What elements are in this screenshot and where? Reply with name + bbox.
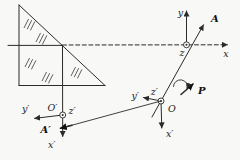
x-prime-label-at-o: x′: [166, 128, 174, 139]
glass-hatch-mark: [42, 72, 53, 83]
glass-hatch-mark: [71, 67, 82, 78]
z-prime-dot-o-prime: [62, 114, 64, 116]
origin-o-prime-label: O′: [48, 102, 59, 113]
z-axis-label: z: [178, 47, 185, 58]
image-ray-to-a-prime: [62, 101, 161, 128]
z-prime-label-at-o: z′: [150, 86, 159, 97]
glass-hatch-mark: [24, 19, 35, 30]
rotation-curl-arrow: [173, 80, 187, 89]
y-axis-label: y: [177, 7, 184, 18]
x-prime-label-at-o-prime: x′: [48, 139, 56, 150]
x-prime-axis-at-o: [161, 101, 162, 128]
vector-p-arrow: [181, 84, 193, 95]
vector-a-prime-label: A′: [40, 124, 52, 135]
x-axis-label: x: [223, 48, 229, 59]
optics-mirror-diagram: y x z A z′ O x′ y′ P O′ z′ y′ x′ A′: [0, 0, 240, 160]
image-frame: O′ z′ y′ x′ A′: [21, 101, 161, 150]
y-prime-label-at-o-prime: y′: [21, 103, 30, 114]
z-prime-label-at-o-prime: z′: [68, 105, 77, 116]
glass-hatch-mark: [36, 33, 47, 44]
z-axis-dot: [186, 44, 188, 46]
vector-a-label: A: [210, 13, 219, 24]
y-prime-axis-at-o-prime: [35, 115, 63, 118]
y-prime-label-at-o: y′: [130, 90, 139, 101]
diagram-canvas: y x z A z′ O x′ y′ P O′ z′ y′ x′ A′: [0, 0, 240, 160]
vector-p-label: P: [197, 85, 206, 96]
origin-o-label: O: [168, 103, 176, 114]
glass-hatch-mark: [25, 58, 36, 69]
